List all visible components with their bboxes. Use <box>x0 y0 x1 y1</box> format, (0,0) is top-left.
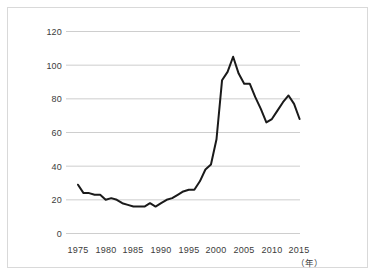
y-tick-label: 100 <box>36 61 62 71</box>
x-tick-label: 1985 <box>119 245 147 255</box>
y-tick-label: 0 <box>36 229 62 239</box>
x-tick-label: 2005 <box>230 245 258 255</box>
x-axis-unit-label: （年） <box>296 256 323 268</box>
y-tick-label: 40 <box>36 162 62 172</box>
y-tick-label: 120 <box>36 27 62 37</box>
gridlines <box>66 32 300 234</box>
y-tick-label: 20 <box>36 195 62 205</box>
data-series-line <box>78 57 300 207</box>
x-tick-label: 1980 <box>92 245 120 255</box>
y-tick-label: 60 <box>36 128 62 138</box>
x-tick-label: 2010 <box>258 245 286 255</box>
x-tick-label: 2000 <box>202 245 230 255</box>
x-tick-label: 1995 <box>175 245 203 255</box>
data-series-group <box>78 57 300 207</box>
x-tick-label: 1975 <box>64 245 92 255</box>
x-tick-label: 2015 <box>285 245 313 255</box>
x-tick-label: 1990 <box>147 245 175 255</box>
line-chart: 120 100 80 60 40 20 0 1975 1980 1985 199… <box>0 0 377 278</box>
y-tick-label: 80 <box>36 94 62 104</box>
